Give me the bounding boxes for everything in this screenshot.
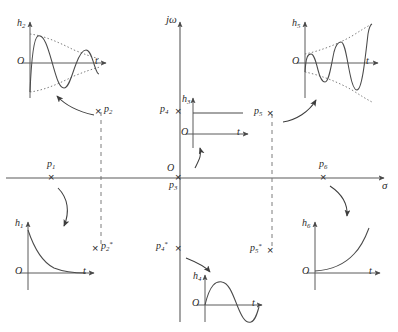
response-time-label-h5: t (366, 56, 369, 66)
pole-marker-p4-conjugate[interactable]: × (175, 243, 181, 254)
h1-waveform (28, 230, 86, 273)
pole-marker-p5-conjugate[interactable]: × (267, 245, 273, 256)
arrow-p4star-to-h4 (186, 258, 210, 272)
pole-label-p3: p3 (169, 180, 177, 192)
response-time-label-h1: t (83, 266, 86, 276)
response-plot-h6 (307, 222, 380, 290)
splane-origin-label: O (167, 163, 174, 173)
response-label-h4: h4 (193, 271, 201, 283)
arrow-p1-to-h1 (58, 188, 67, 226)
arrow-p5-to-h5 (283, 100, 316, 122)
response-origin-h3: O (181, 127, 188, 137)
response-plot-h2 (22, 22, 106, 98)
response-origin-h5: O (292, 56, 299, 66)
pole-marker-p6[interactable]: × (320, 172, 326, 183)
pole-label-p5-conjugate: p5* (250, 243, 262, 255)
imaginary-axis-label: jω (166, 14, 177, 25)
response-plot-h1 (20, 222, 94, 290)
arrow-p2-to-h2 (57, 96, 94, 115)
real-axis-label: σ (382, 180, 387, 191)
h6-waveform (315, 228, 369, 271)
response-label-h3: h3 (182, 94, 190, 106)
h5-upper-envelope (305, 24, 372, 54)
response-label-h1: h1 (15, 218, 23, 230)
h5-waveform (305, 24, 372, 90)
response-label-h5: h5 (292, 18, 300, 30)
pole-marker-p5[interactable]: × (267, 108, 273, 119)
h4-waveform (205, 282, 259, 322)
pole-label-p6: p6 (319, 159, 327, 171)
response-time-label-h4: t (252, 298, 255, 308)
response-time-label-h2: t (95, 56, 98, 66)
response-origin-h2: O (17, 56, 24, 66)
pole-marker-p2[interactable]: × (95, 106, 101, 117)
response-plot-h3 (186, 98, 248, 148)
response-origin-h4: O (192, 298, 199, 308)
pole-label-p2-conjugate: p2* (101, 241, 113, 253)
s-plane-pole-response-diagram: jω σ O × p1 × p2 × p2* × p3 × p4 × p4* ×… (0, 0, 398, 332)
pole-label-p5: p5 (254, 106, 262, 118)
arrow-p6-to-h6 (330, 186, 347, 216)
pole-marker-p2-conjugate[interactable]: × (92, 243, 98, 254)
pole-label-p2: p2 (104, 104, 112, 116)
pole-label-p4-conjugate: p4* (156, 241, 168, 253)
h2-waveform (30, 36, 99, 92)
pole-label-p1: p1 (47, 159, 55, 171)
response-time-label-h6: t (369, 266, 372, 276)
response-time-label-h3: t (237, 127, 240, 137)
response-label-h2: h2 (17, 18, 25, 30)
pole-label-p4: p4 (160, 104, 168, 116)
pole-marker-p4[interactable]: × (175, 106, 181, 117)
pole-marker-p1[interactable]: × (48, 172, 54, 183)
arrow-p4-to-h3 (195, 148, 201, 168)
response-origin-h6: O (302, 266, 309, 276)
response-origin-h1: O (15, 266, 22, 276)
response-label-h6: h6 (302, 218, 310, 230)
h2-upper-envelope (30, 34, 100, 59)
